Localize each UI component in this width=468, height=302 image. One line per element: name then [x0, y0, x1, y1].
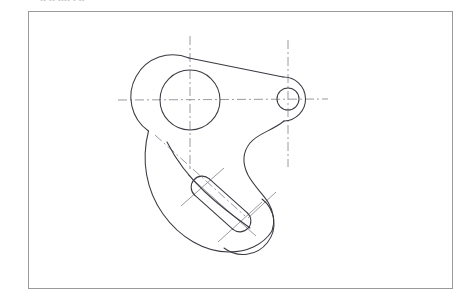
drawing-border — [29, 12, 453, 289]
drawing-page: ıı ıı ıııı ı ıı — [0, 0, 468, 302]
technical-drawing-canvas — [0, 0, 468, 302]
